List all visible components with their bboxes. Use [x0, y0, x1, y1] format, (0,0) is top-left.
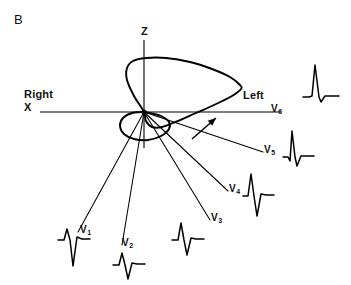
ecg-waveform-group [58, 65, 339, 279]
rotation-direction-arrow [192, 118, 216, 139]
lead-label-subscript: 5 [271, 149, 275, 156]
origin-point [141, 109, 146, 114]
panel-label: B [14, 13, 23, 26]
lead-label-v6: V6 [271, 104, 282, 114]
lead-label-subscript: 1 [87, 229, 91, 236]
ecg-waveform-v5 [283, 131, 314, 166]
lead-label-v1: V1 [80, 225, 91, 235]
lead-label-subscript: 4 [236, 188, 240, 195]
ecg-waveform-v2 [113, 253, 145, 279]
ecg-waveform-v6 [303, 65, 339, 102]
lead-vector-group [78, 112, 263, 245]
x-axis-label: X [24, 102, 32, 113]
ecg-waveform-v4 [243, 174, 274, 216]
lead-label-v3: V3 [211, 213, 222, 223]
lead-label-subscript: 6 [278, 108, 282, 115]
lead-label-v4: V4 [229, 184, 240, 194]
z-axis-label: Z [141, 26, 148, 37]
qrs-loop-group [120, 58, 242, 141]
lead-label-v2: V2 [122, 238, 133, 248]
vcg-diagram-canvas [0, 0, 351, 285]
lead-vector-v4 [144, 112, 228, 191]
ecg-waveform-v3 [172, 223, 204, 255]
left-orientation-label: Left [243, 90, 264, 101]
vcg-figure-panel-b: B Z Right X Left V1V2V3V4V5V6 [0, 0, 351, 285]
right-orientation-label: Right [24, 89, 53, 100]
lead-label-subscript: 3 [218, 217, 222, 224]
lead-label-v5: V5 [264, 145, 275, 155]
lead-label-subscript: 2 [129, 242, 133, 249]
lead-vector-v3 [144, 112, 210, 220]
lead-vector-v5 [144, 112, 263, 152]
